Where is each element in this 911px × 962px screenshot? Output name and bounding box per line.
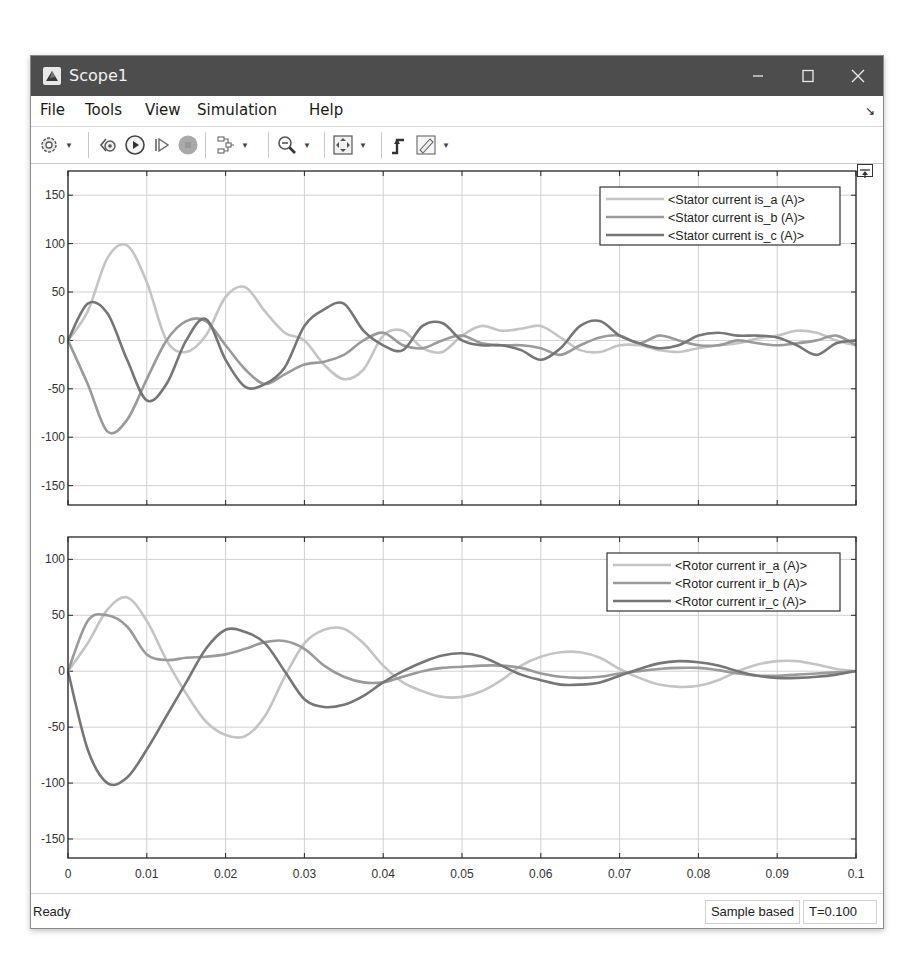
chevron-down-icon: ▼ (65, 141, 73, 150)
simulation-time: T=0.100 (803, 900, 877, 924)
chevron-down-icon: ▼ (359, 141, 367, 150)
trigger-icon (389, 134, 409, 156)
legend[interactable]: <Stator current is_a (A)><Stator current… (600, 187, 840, 245)
toolbar-separator (268, 132, 269, 158)
y-tick-label: 50 (52, 608, 66, 622)
y-tick-label: -150 (41, 832, 65, 846)
axes-panel-2[interactable]: 100500-50-100-150<Rotor current ir_a (A)… (41, 537, 856, 858)
x-tick-label: 0.04 (372, 867, 396, 881)
legend-entry: <Stator current is_a (A)> (668, 193, 805, 207)
x-tick-label: 0.09 (766, 867, 790, 881)
close-icon (851, 69, 865, 83)
y-tick-label: 100 (45, 552, 65, 566)
toolbar-separator (205, 132, 206, 158)
scale-axes-button[interactable]: ▼ (332, 133, 367, 157)
signal-hierarchy-icon (214, 134, 236, 156)
x-tick-label: 0.05 (450, 867, 474, 881)
window-title: Scope1 (69, 66, 128, 85)
title-bar[interactable]: Scope1 (31, 56, 883, 96)
minimize-icon (752, 70, 764, 82)
stop-button[interactable] (177, 133, 199, 157)
fit-axes-icon (332, 134, 354, 156)
step-forward-button[interactable] (152, 133, 172, 157)
triggers-button[interactable] (389, 133, 409, 157)
plots-canvas[interactable]: 150100500-50-100-150<Stator current is_a… (31, 164, 883, 894)
gear-icon (39, 135, 59, 155)
chevron-down-icon: ▼ (442, 141, 450, 150)
run-button[interactable] (124, 133, 146, 157)
legend-entry: <Stator current is_b (A)> (668, 211, 805, 225)
legend-entry: <Stator current is_c (A)> (668, 229, 804, 243)
menu-view[interactable]: View (145, 101, 181, 119)
x-tick-label: 0.08 (687, 867, 711, 881)
step-back-button[interactable] (98, 133, 118, 157)
maximize-icon (801, 69, 815, 83)
step-back-icon (98, 135, 118, 155)
y-tick-label: 150 (45, 188, 65, 202)
zoom-out-icon (276, 134, 298, 156)
y-tick-label: 0 (58, 333, 65, 347)
axes-panel-1[interactable]: 150100500-50-100-150<Stator current is_a… (41, 171, 856, 505)
toolbar-separator (88, 132, 89, 158)
step-forward-icon (152, 135, 172, 155)
y-tick-label: -50 (48, 720, 66, 734)
menu-bar: File Tools View Simulation Help ↘ (31, 96, 883, 127)
settings-button[interactable]: ▼ (39, 133, 73, 157)
toolbar-separator (381, 132, 382, 158)
scope-plot-area: 150100500-50-100-150<Stator current is_a… (31, 164, 883, 894)
status-bar: Ready Sample based T=0.100 (31, 893, 883, 928)
toolbar: ▼ (31, 127, 883, 164)
y-tick-label: 0 (58, 664, 65, 678)
x-tick-label: 0.02 (214, 867, 238, 881)
zoom-button[interactable]: ▼ (276, 133, 311, 157)
y-tick-label: -100 (41, 776, 65, 790)
measurements-button[interactable]: ▼ (415, 133, 450, 157)
highlight-button[interactable]: ▼ (214, 133, 249, 157)
stop-icon (177, 134, 199, 156)
x-tick-label: 0.1 (848, 867, 865, 881)
minimize-button[interactable] (733, 56, 783, 96)
maximize-button[interactable] (783, 56, 833, 96)
matlab-logo-icon (43, 67, 61, 85)
x-tick-label: 0 (65, 867, 72, 881)
play-icon (124, 134, 146, 156)
legend-entry: <Rotor current ir_c (A)> (675, 595, 806, 609)
menu-simulation[interactable]: Simulation (197, 101, 277, 119)
x-tick-label: 0.03 (293, 867, 317, 881)
y-tick-label: 100 (45, 237, 65, 251)
y-tick-label: -100 (41, 430, 65, 444)
menu-tools[interactable]: Tools (85, 101, 122, 119)
menu-help[interactable]: Help (309, 101, 343, 119)
y-tick-label: -50 (48, 382, 66, 396)
y-tick-label: -150 (41, 479, 65, 493)
ruler-icon (415, 134, 437, 156)
toolbar-separator (324, 132, 325, 158)
status-text: Ready (33, 904, 71, 919)
legend-entry: <Rotor current ir_b (A)> (675, 577, 807, 591)
legend[interactable]: <Rotor current ir_a (A)><Rotor current i… (607, 553, 840, 611)
dock-arrow-icon[interactable]: ↘ (865, 104, 875, 118)
x-tick-label: 0.07 (608, 867, 632, 881)
x-tick-label: 0.01 (135, 867, 159, 881)
chevron-down-icon: ▼ (303, 141, 311, 150)
chevron-down-icon: ▼ (241, 141, 249, 150)
legend-entry: <Rotor current ir_a (A)> (675, 559, 807, 573)
x-tick-label: 0.06 (529, 867, 553, 881)
menu-file[interactable]: File (40, 101, 65, 119)
y-tick-label: 50 (52, 285, 66, 299)
sampling-mode: Sample based (705, 900, 800, 924)
close-button[interactable] (833, 56, 883, 96)
scope-window: Scope1 File Tools View Simulation Help ↘… (30, 55, 884, 929)
